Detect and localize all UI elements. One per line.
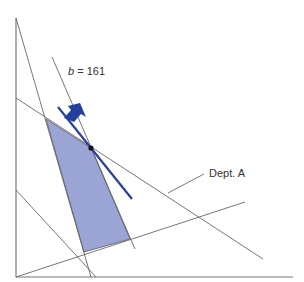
improvement-direction-arrow-icon xyxy=(64,103,86,122)
constraint-label-dept-a: Dept. A xyxy=(209,167,245,179)
label-leader-line xyxy=(168,174,204,193)
feasible-region xyxy=(46,119,130,252)
lp-diagram: b = 161 Dept. A xyxy=(0,0,304,282)
constraint-line-rising xyxy=(16,202,245,277)
objective-equation: = 161 xyxy=(74,65,105,77)
diagram-canvas xyxy=(0,0,304,282)
objective-value-label: b = 161 xyxy=(68,65,105,77)
optimum-point xyxy=(88,145,93,150)
